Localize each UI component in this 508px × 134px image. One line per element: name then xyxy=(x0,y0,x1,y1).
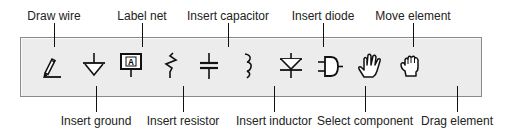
leader-line xyxy=(457,86,458,112)
insert-ground-button[interactable] xyxy=(79,48,109,84)
draw-wire-label: Draw wire xyxy=(27,9,80,23)
label-net-button[interactable]: A xyxy=(116,48,146,84)
leader-line xyxy=(54,23,55,47)
leader-line xyxy=(274,86,275,112)
grab-hand-icon xyxy=(397,51,425,81)
drag-element-button[interactable] xyxy=(396,48,426,84)
insert-inductor-button[interactable] xyxy=(233,48,263,84)
and-gate-icon xyxy=(316,51,344,81)
leader-line xyxy=(323,23,324,47)
pencil-wire-icon xyxy=(39,51,67,81)
open-hand-icon xyxy=(356,51,384,81)
leader-line xyxy=(365,86,366,112)
leader-line xyxy=(96,86,97,112)
insert-resistor-label: Insert resistor xyxy=(147,114,220,128)
select-component-button[interactable] xyxy=(315,48,345,84)
inductor-icon xyxy=(234,51,262,81)
resistor-icon xyxy=(156,51,184,81)
net-label-icon: A xyxy=(117,51,145,81)
insert-diode-button[interactable] xyxy=(276,48,306,84)
leader-line xyxy=(413,23,414,47)
insert-capacitor-label: Insert capacitor xyxy=(187,9,269,23)
insert-capacitor-button[interactable] xyxy=(194,48,224,84)
drag-element-label: Drag element xyxy=(421,114,493,128)
insert-ground-label: Insert ground xyxy=(61,114,132,128)
capacitor-icon xyxy=(195,51,223,81)
ground-icon xyxy=(80,51,108,81)
insert-diode-label: Insert diode xyxy=(292,9,355,23)
svg-text:A: A xyxy=(128,58,134,68)
select-component-label: Select component xyxy=(317,114,413,128)
leader-line xyxy=(142,23,143,47)
insert-resistor-button[interactable] xyxy=(155,48,185,84)
move-element-label: Move element xyxy=(375,9,450,23)
leader-line xyxy=(183,86,184,112)
move-element-button[interactable] xyxy=(355,48,385,84)
leader-line xyxy=(228,23,229,47)
diode-icon xyxy=(277,51,305,81)
draw-wire-button[interactable] xyxy=(38,48,68,84)
insert-inductor-label: Insert inductor xyxy=(236,114,312,128)
label-net-label: Label net xyxy=(117,9,166,23)
